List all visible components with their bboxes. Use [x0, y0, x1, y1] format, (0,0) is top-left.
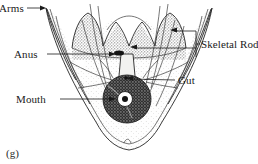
leader-arms	[27, 6, 46, 11]
figure-panel: Arms Anus Mouth Gut Skeletal Rods (g)	[0, 0, 258, 164]
anus-opening	[114, 50, 124, 55]
mouth-structure	[118, 92, 133, 107]
mouth-opening	[122, 96, 128, 102]
label-anus: Anus	[14, 48, 38, 60]
anus-structure	[114, 50, 124, 55]
label-mouth: Mouth	[16, 93, 46, 105]
figure-caption: (g)	[6, 147, 19, 160]
label-gut: Gut	[178, 74, 195, 86]
label-skeletal-rods: Skeletal Rods	[201, 38, 258, 50]
label-arms: Arms	[0, 2, 24, 14]
